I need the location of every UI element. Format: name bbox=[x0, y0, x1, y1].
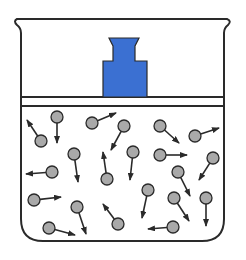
weight-block bbox=[103, 38, 147, 97]
molecule-sphere bbox=[172, 166, 184, 178]
gas-molecule bbox=[27, 120, 47, 147]
gas-molecule bbox=[111, 120, 130, 150]
velocity-arrow-icon bbox=[201, 128, 219, 134]
gas-molecule bbox=[28, 194, 61, 206]
velocity-arrow-icon bbox=[130, 158, 132, 180]
velocity-arrow-icon bbox=[27, 120, 38, 136]
molecule-sphere bbox=[28, 194, 40, 206]
molecule-sphere bbox=[167, 221, 179, 233]
gas-molecule bbox=[68, 148, 80, 182]
molecule-sphere bbox=[43, 222, 55, 234]
gas-molecule bbox=[154, 120, 179, 143]
velocity-arrow-icon bbox=[103, 152, 106, 173]
piston bbox=[21, 97, 224, 106]
gas-molecule bbox=[103, 204, 124, 230]
gas-molecule bbox=[148, 221, 179, 233]
gas-molecule bbox=[43, 222, 75, 235]
molecule-sphere bbox=[168, 192, 180, 204]
gas-molecule bbox=[127, 146, 139, 180]
velocity-arrow-icon bbox=[181, 177, 190, 196]
velocity-arrow-icon bbox=[148, 227, 167, 229]
gas-piston-diagram bbox=[0, 0, 246, 260]
molecule-sphere bbox=[207, 152, 219, 164]
molecule-sphere bbox=[86, 117, 98, 129]
molecule-sphere bbox=[200, 192, 212, 204]
molecule-sphere bbox=[51, 111, 63, 123]
velocity-arrow-icon bbox=[75, 160, 78, 182]
velocity-arrow-icon bbox=[26, 172, 46, 174]
velocity-arrow-icon bbox=[40, 197, 61, 199]
gas-molecule bbox=[71, 201, 86, 234]
gas-molecule bbox=[154, 149, 187, 161]
molecule-sphere bbox=[35, 135, 47, 147]
velocity-arrow-icon bbox=[98, 113, 116, 121]
molecule-sphere bbox=[142, 184, 154, 196]
molecule-sphere bbox=[46, 166, 58, 178]
gas-molecule bbox=[199, 152, 219, 180]
molecule-sphere bbox=[127, 146, 139, 158]
molecule-sphere bbox=[154, 149, 166, 161]
gas-molecule bbox=[86, 113, 116, 129]
molecule-sphere bbox=[68, 148, 80, 160]
molecule-sphere bbox=[71, 201, 83, 213]
molecule-sphere bbox=[118, 120, 130, 132]
molecule-sphere bbox=[101, 173, 113, 185]
gas-molecule bbox=[200, 192, 212, 226]
velocity-arrow-icon bbox=[55, 230, 75, 235]
velocity-arrow-icon bbox=[79, 213, 86, 234]
molecule-sphere bbox=[154, 120, 166, 132]
velocity-arrow-icon bbox=[199, 163, 210, 180]
molecule-sphere bbox=[112, 218, 124, 230]
velocity-arrow-icon bbox=[103, 204, 114, 219]
gas-molecule bbox=[142, 184, 154, 218]
velocity-arrow-icon bbox=[177, 203, 189, 221]
gas-molecule bbox=[168, 192, 189, 221]
molecule-sphere bbox=[189, 130, 201, 142]
velocity-arrow-icon bbox=[111, 131, 121, 150]
velocity-arrow-icon bbox=[142, 196, 147, 218]
velocity-arrow-icon bbox=[164, 130, 179, 143]
gas-molecule bbox=[26, 166, 58, 178]
gas-molecule bbox=[51, 111, 63, 143]
gas-molecule bbox=[189, 128, 219, 142]
gas-molecules bbox=[26, 111, 219, 235]
gas-molecule bbox=[101, 152, 113, 185]
